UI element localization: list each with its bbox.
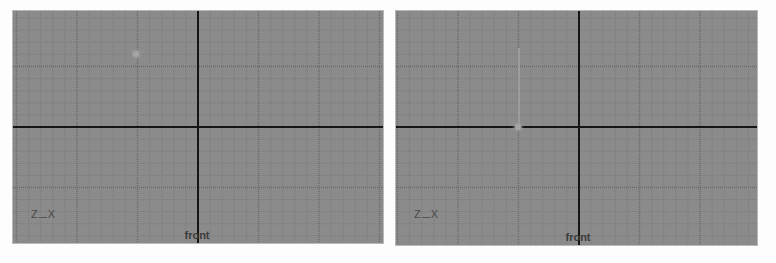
gizmo-arrow-icon: [39, 217, 47, 218]
viewport-stage: ZX front ZX front: [0, 0, 776, 263]
locator-icon[interactable]: [133, 51, 139, 57]
front-viewport-left[interactable]: ZX front: [12, 10, 384, 244]
gizmo-x-label: X: [431, 209, 438, 220]
view-label: front: [565, 232, 590, 243]
axis-gizmo: ZX: [414, 209, 438, 220]
locator-icon[interactable]: [515, 124, 521, 130]
view-label: front: [184, 230, 209, 241]
x-axis-line: [396, 126, 757, 128]
z-axis-line: [197, 11, 199, 243]
gizmo-x-label: X: [48, 209, 55, 220]
locator-line-icon[interactable]: [518, 48, 520, 130]
gizmo-arrow-icon: [422, 217, 430, 218]
front-viewport-right[interactable]: ZX front: [395, 10, 758, 246]
axis-gizmo: ZX: [31, 209, 55, 220]
gizmo-z-label: Z: [31, 209, 38, 220]
grid: [396, 11, 758, 246]
z-axis-line: [578, 11, 580, 245]
gizmo-z-label: Z: [414, 209, 421, 220]
